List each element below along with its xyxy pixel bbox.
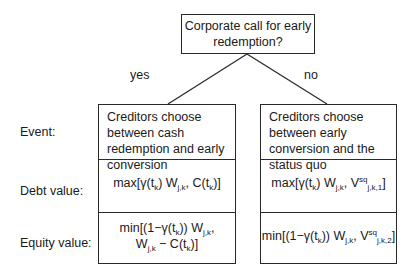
- row-label-event: Event:: [20, 125, 55, 139]
- no-equity-formula: min[(1−γ(tk)) Wj,k, Vsqj,k,2]: [262, 228, 395, 244]
- row-label-debt-value: Debt value:: [20, 184, 83, 198]
- edge-label-no: no: [304, 68, 318, 82]
- edge-label-yes: yes: [130, 68, 149, 82]
- row-label-equity-value: Equity value:: [20, 236, 92, 250]
- no-branch-column: Creditors choose between early conversio…: [260, 104, 397, 264]
- yes-debt-formula: max[γ(tk) Wj,k, C(tk)]: [113, 175, 221, 191]
- yes-branch-line: [168, 54, 247, 104]
- yes-branch-column: Creditors choose between cash redemption…: [98, 104, 236, 264]
- yes-equity-formula-line1: min[(1−γ(tk)) Wj,k,: [119, 220, 214, 236]
- yes-equity-value-cell: min[(1−γ(tk)) Wj,k, Wj,k − C(tk)]: [99, 213, 235, 263]
- no-debt-formula: max[γ(tk) Wj,k, Vsqj,k,1]: [271, 175, 385, 191]
- decision-question-line1: Corporate call for early: [185, 19, 311, 33]
- decision-question-line2: redemption?: [213, 35, 283, 49]
- yes-equity-formula-line2: Wj,k − C(tk)]: [136, 236, 198, 252]
- decision-node-corporate-call: Corporate call for early redemption?: [181, 14, 315, 54]
- no-equity-value-cell: min[(1−γ(tk)) Wj,k, Vsqj,k,2]: [261, 213, 396, 263]
- no-event-cell: Creditors choose between early conversio…: [261, 105, 396, 160]
- yes-event-cell: Creditors choose between cash redemption…: [99, 105, 235, 160]
